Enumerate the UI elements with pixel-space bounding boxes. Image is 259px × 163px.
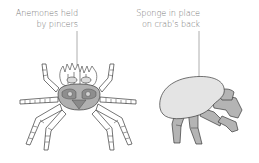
anemones	[60, 63, 97, 86]
crab-legs-left	[20, 64, 66, 150]
crab-carapace	[58, 84, 100, 110]
illustration-canvas	[0, 0, 259, 163]
crab-legs-right	[92, 64, 136, 150]
sponge-crab-illustration	[160, 76, 242, 144]
decorator-crab-illustration	[20, 63, 136, 150]
